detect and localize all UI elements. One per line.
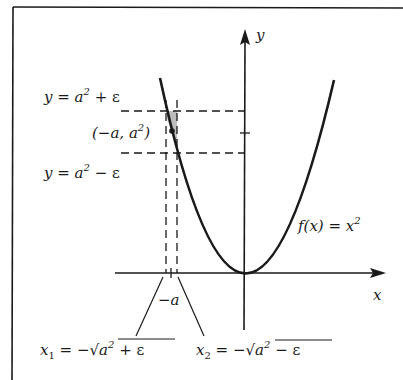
- neg-a-label: −a: [158, 291, 180, 309]
- upper-line-label: y = a2 + ε: [43, 86, 120, 106]
- curve-label: f(x) = x2: [297, 215, 361, 235]
- y-axis: [244, 42, 245, 330]
- point-neg-a: [169, 128, 175, 134]
- x2-label: x2 = −√a2 − ε: [196, 339, 301, 361]
- frame-left-border: [12, 7, 13, 380]
- point-label: (−a, a2): [92, 122, 150, 142]
- parabola-curve: [160, 78, 334, 274]
- y-axis-label: y: [255, 26, 265, 44]
- lower-line-label: y = a2 − ε: [43, 162, 120, 182]
- frame-top-border: [13, 7, 403, 8]
- x1-label: x1 = −√a2 + ε: [40, 339, 145, 361]
- parabola-diagram: y x y = a2 + ε (−a, a2) y = a2 − ε f(x) …: [0, 0, 403, 380]
- leader-line-x2: [178, 277, 204, 336]
- x-axis-label: x: [373, 286, 382, 304]
